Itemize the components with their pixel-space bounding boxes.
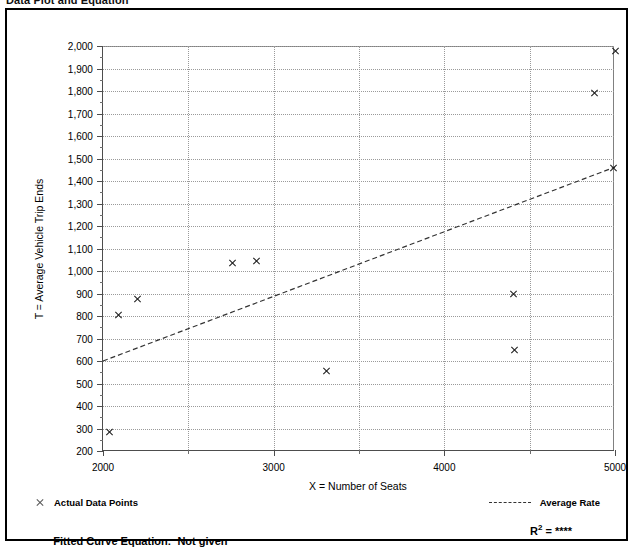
fitted-curve-value: Not given	[177, 535, 227, 547]
x-axis-tick-label: 2000	[92, 462, 114, 473]
plot-area: 2003004005006007008009001,0001,1001,2001…	[102, 46, 614, 451]
y-axis-tick-label: 200	[76, 446, 98, 457]
legend-item-average-rate: Average Rate	[489, 497, 600, 508]
y-axis-tick-label: 300	[76, 423, 98, 434]
x-axis-tick-label: 4000	[433, 462, 455, 473]
y-axis-tick-label: 1,200	[68, 221, 98, 232]
y-axis-tick-label: 1,500	[68, 153, 98, 164]
document-heading: Data Plot and Equation	[6, 0, 129, 6]
y-axis-tick-label: 900	[76, 288, 98, 299]
y-axis-tick-label: 800	[76, 311, 98, 322]
x-marker-icon	[35, 498, 44, 507]
legend-label-actual-data-points: Actual Data Points	[54, 497, 138, 508]
r-squared-number: ****	[555, 525, 572, 537]
x-axis-title: X = Number of Seats	[102, 480, 614, 492]
y-axis-tick-label: 1,700	[68, 108, 98, 119]
fitted-curve-label: Fitted Curve Equation:	[53, 535, 171, 547]
y-axis-title: T = Average Vehicle Trip Ends	[31, 46, 47, 451]
average-rate-line	[103, 167, 615, 361]
figure-frame: T = Average Vehicle Trip Ends 2003004005…	[5, 8, 628, 541]
r-squared-value: R2 = ****	[530, 523, 572, 537]
y-axis-tick-label: 1,000	[68, 266, 98, 277]
y-axis-tick-label: 1,300	[68, 198, 98, 209]
chart-footer: Fitted Curve Equation: Not given R2 = **…	[7, 523, 630, 545]
x-axis-tick-label: 3000	[263, 462, 285, 473]
legend-item-actual-data-points: Actual Data Points	[35, 497, 138, 508]
y-axis-tick-label: 1,600	[68, 131, 98, 142]
r-squared-equals: =	[542, 525, 555, 537]
fitted-curve-equation: Fitted Curve Equation: Not given	[35, 523, 228, 548]
y-axis-tick-label: 1,100	[68, 243, 98, 254]
legend-label-average-rate: Average Rate	[540, 497, 600, 508]
y-axis-tick-label: 600	[76, 356, 98, 367]
x-axis-tick-label: 5000	[604, 462, 626, 473]
average-rate-trendline	[103, 46, 615, 451]
dashed-line-icon	[489, 502, 531, 503]
chart-legend: Actual Data Points Average Rate	[7, 497, 630, 517]
y-axis-tick-label: 700	[76, 333, 98, 344]
r-squared-symbol: R	[530, 525, 538, 537]
y-axis-title-text: T = Average Vehicle Trip Ends	[33, 178, 45, 319]
y-axis-tick-label: 1,800	[68, 86, 98, 97]
y-axis-tick-label: 400	[76, 401, 98, 412]
y-axis-tick-label: 1,900	[68, 63, 98, 74]
y-axis-tick-label: 500	[76, 378, 98, 389]
y-axis-tick-label: 1,400	[68, 176, 98, 187]
x-axis-tick	[615, 450, 616, 456]
y-axis-tick-label: 2,000	[68, 41, 98, 52]
